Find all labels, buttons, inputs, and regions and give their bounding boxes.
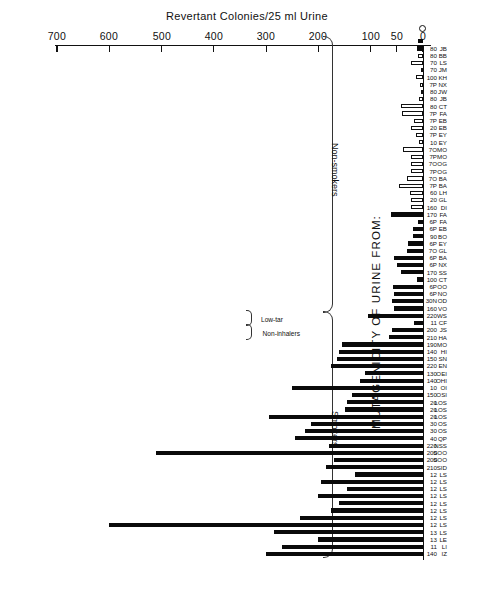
- category-label-initials: MO: [437, 146, 447, 153]
- axis-tick: [56, 46, 57, 52]
- category-label-initials: DI: [441, 204, 447, 211]
- bar: [318, 494, 423, 498]
- bar: [410, 191, 423, 195]
- bar: [347, 400, 423, 404]
- category-label-value: 12: [430, 492, 437, 499]
- bar: [412, 198, 424, 202]
- bar: [368, 314, 423, 318]
- category-label-value: 7P: [429, 131, 437, 138]
- category-label-value: 100: [427, 74, 437, 81]
- bar: [366, 371, 424, 375]
- category-label-value: 60: [430, 189, 437, 196]
- bar: [321, 480, 423, 484]
- category-label-initials: LS: [439, 478, 447, 485]
- axis-tick-label: 400: [204, 30, 223, 42]
- category-label-value: 20: [430, 406, 437, 413]
- category-label-initials: OHI: [436, 377, 447, 384]
- category-label-value: 12: [430, 500, 437, 507]
- bar: [326, 465, 423, 469]
- category-label-initials: EY: [439, 240, 447, 247]
- category-label-initials: FA: [439, 218, 447, 225]
- bar: [418, 54, 423, 58]
- category-label-initials: JW: [438, 88, 447, 95]
- category-label-value: 13: [430, 529, 437, 536]
- bar: [392, 328, 423, 332]
- category-label-value: 70: [430, 59, 437, 66]
- category-label-value: 210: [427, 334, 437, 341]
- bar: [397, 263, 423, 267]
- bar: [414, 119, 423, 123]
- value-axis: [55, 45, 431, 46]
- category-label-initials: LS: [439, 485, 447, 492]
- category-label-initials: OG: [437, 160, 447, 167]
- bar: [355, 472, 423, 476]
- category-label-initials: SN: [438, 355, 447, 362]
- category-label-value: 150: [427, 391, 437, 398]
- category-label-initials: LS: [439, 521, 447, 528]
- category-label-initials: LS: [439, 507, 447, 514]
- category-label-initials: EB: [439, 124, 447, 131]
- bar: [332, 509, 424, 513]
- group-label-nonsmokers: Non-smokers: [330, 143, 340, 197]
- axis-tick-label: 500: [152, 30, 171, 42]
- bar: [342, 342, 423, 346]
- category-label-value: 220: [427, 362, 437, 369]
- bar: [334, 458, 423, 462]
- category-label-value: 12: [430, 521, 437, 528]
- category-label-value: 6P: [429, 290, 437, 297]
- bar: [295, 436, 423, 440]
- bar: [332, 364, 424, 368]
- category-label-value: 6P: [429, 218, 437, 225]
- category-label-value: 12: [430, 485, 437, 492]
- bar-chart-plot: MUTAGENICITY OF URINE FROM: Revertant Co…: [0, 0, 488, 604]
- category-label-value: 7P: [429, 153, 437, 160]
- bar: [412, 205, 424, 209]
- bar: [337, 357, 423, 361]
- category-label-value: 20: [430, 196, 437, 203]
- category-label-value: 6P: [429, 261, 437, 268]
- bar: [391, 212, 423, 216]
- category-label-initials: SS: [439, 269, 447, 276]
- category-label-initials: KH: [438, 74, 447, 81]
- category-label-initials: JB: [440, 45, 447, 52]
- category-label-value: 7O: [429, 247, 437, 254]
- category-label-value: 200: [427, 449, 437, 456]
- bar: [389, 335, 423, 339]
- category-label-initials: EB: [439, 225, 447, 232]
- bar: [401, 270, 423, 274]
- category-label-initials: NX: [438, 81, 447, 88]
- axis-tick-label: 200: [309, 30, 328, 42]
- category-label-initials: JM: [439, 66, 447, 73]
- category-label-initials: EY: [439, 131, 447, 138]
- bar: [282, 545, 423, 549]
- axis-tick: [318, 46, 319, 52]
- category-label-initials: OD: [438, 298, 447, 305]
- category-label-initials: OS: [438, 420, 447, 427]
- category-label-value: 30: [430, 427, 437, 434]
- category-label-value: 7O: [429, 175, 437, 182]
- category-label-value: 6P: [429, 254, 437, 261]
- bar: [305, 429, 423, 433]
- bar: [414, 321, 423, 325]
- bar: [339, 501, 423, 505]
- axis-tick-label: 600: [100, 30, 119, 42]
- category-label-initials: BO: [438, 233, 447, 240]
- category-label-initials: OG: [437, 168, 447, 175]
- bar: [417, 46, 423, 50]
- bar: [345, 407, 423, 411]
- category-label-value: 7O: [429, 160, 437, 167]
- category-label-value: 7P: [429, 182, 437, 189]
- bar: [412, 126, 424, 130]
- bar: [419, 97, 423, 101]
- bar: [408, 241, 423, 245]
- rotated-figure: MUTAGENICITY OF URINE FROM: Revertant Co…: [0, 0, 488, 604]
- bar: [339, 350, 423, 354]
- category-label-initials: FA: [439, 211, 447, 218]
- category-label-initials: EN: [438, 362, 447, 369]
- category-label-value: 200: [427, 456, 437, 463]
- category-label-initials: QP: [438, 435, 447, 442]
- bar: [413, 227, 423, 231]
- category-label-initials: WS: [437, 312, 447, 319]
- bar: [416, 133, 423, 137]
- category-label-value: 20: [430, 413, 437, 420]
